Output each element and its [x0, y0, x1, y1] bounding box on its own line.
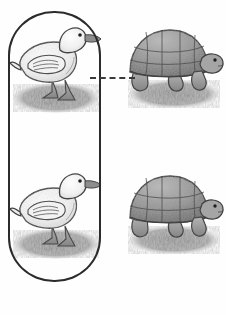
- tortoise-drawing: [122, 160, 226, 270]
- worksheet-canvas: [0, 0, 226, 315]
- tortoise-head: [200, 54, 223, 73]
- connector-line[interactable]: [90, 77, 135, 79]
- tortoise-eye: [213, 58, 216, 61]
- tortoise-front-leg: [192, 217, 206, 236]
- tortoise-eye: [213, 204, 216, 207]
- tortoise-illustration[interactable]: [122, 14, 226, 124]
- tortoise-drawing: [122, 14, 226, 124]
- tortoise-shell: [130, 176, 208, 222]
- selection-box[interactable]: [8, 11, 101, 282]
- tortoise-illustration[interactable]: [122, 160, 226, 270]
- tortoise-shell: [130, 30, 208, 76]
- tortoise-front-leg: [192, 71, 206, 90]
- tortoise-head: [200, 200, 223, 219]
